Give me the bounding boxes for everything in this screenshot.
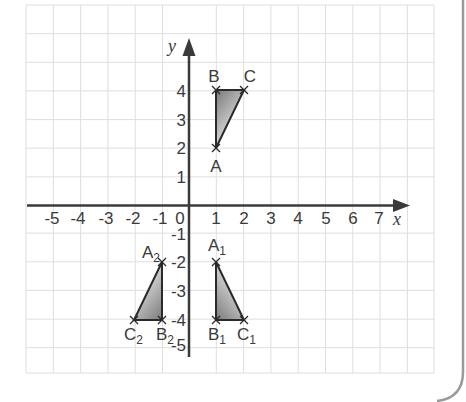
y-axis-arrow-icon [183, 38, 196, 56]
x-axis-label: x [392, 209, 401, 229]
triangle-a2b2c2: A2 B2 C2 [124, 243, 174, 347]
vertex-label-c: C [244, 67, 256, 86]
x-tick: -1 [152, 209, 167, 228]
x-tick: 6 [348, 209, 357, 228]
x-tick: 1 [211, 209, 220, 228]
vertex-label-a2: A2 [142, 243, 160, 265]
x-tick: -3 [98, 209, 113, 228]
y-tick: -1 [171, 225, 186, 244]
vertex-label-b1: B1 [208, 325, 226, 347]
y-tick: 3 [177, 111, 186, 130]
x-tick: 2 [239, 209, 248, 228]
triangle-abc: A B C [208, 67, 256, 176]
frame-border [437, 0, 463, 401]
x-tick-labels: -5 -4 -3 -2 -1 0 1 2 3 4 5 6 7 [44, 209, 383, 228]
x-tick: 5 [321, 209, 330, 228]
vertex-label-c2: C2 [124, 325, 143, 347]
vertex-label-c1: C1 [237, 325, 256, 347]
x-tick: 3 [266, 209, 275, 228]
vertex-label-a: A [210, 157, 222, 176]
triangle-a1b1c1: A1 B1 C1 [208, 236, 256, 347]
x-tick: -4 [70, 209, 85, 228]
vertex-label-b: B [208, 67, 219, 86]
x-tick: -2 [125, 209, 140, 228]
x-tick: 7 [374, 209, 383, 228]
y-tick: 1 [177, 168, 186, 187]
vertex-label-a1: A1 [208, 236, 226, 258]
y-tick: 4 [177, 82, 186, 101]
x-tick: -5 [44, 209, 59, 228]
coordinate-plane-svg: x y -5 -4 -3 -2 -1 0 1 2 3 4 5 6 7 4 3 2… [0, 0, 466, 402]
x-tick: 4 [293, 209, 302, 228]
y-axis-label: y [166, 36, 176, 56]
y-tick: -2 [171, 253, 186, 272]
y-tick: -3 [171, 282, 186, 301]
coordinate-plane-figure: x y -5 -4 -3 -2 -1 0 1 2 3 4 5 6 7 4 3 2… [0, 0, 466, 402]
y-tick: 2 [177, 139, 186, 158]
y-tick: -4 [171, 311, 186, 330]
